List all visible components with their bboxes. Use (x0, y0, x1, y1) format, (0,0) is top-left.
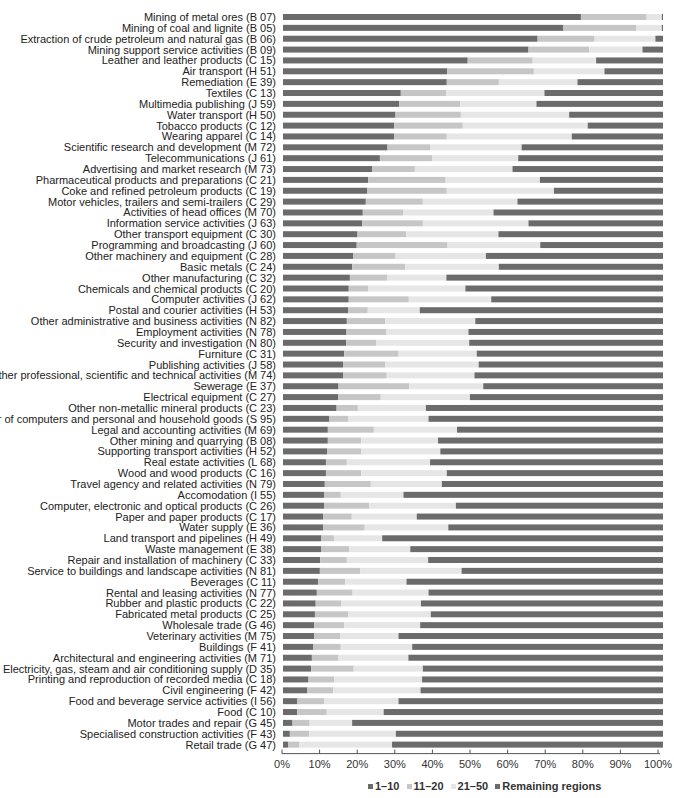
bar-segment-21-50 (361, 438, 438, 444)
bar-segment-1-10 (283, 709, 297, 715)
bar-segment-21-50 (409, 296, 491, 302)
bar-segment-remaining-regions (440, 448, 663, 454)
bar-segment-1-10 (283, 742, 288, 748)
bar-segment-remaining-regions (588, 123, 663, 129)
bar-segment-11-20 (346, 340, 376, 346)
legend-item-1-10: 1–10 (368, 780, 399, 792)
bar-segment-21-50 (368, 307, 420, 313)
x-tick-label: 90% (609, 758, 631, 770)
bar-segment-1-10 (283, 36, 538, 42)
bar-segment-remaining-regions (422, 676, 663, 682)
bar-segment-remaining-regions (498, 231, 663, 237)
bar-segment-remaining-regions (399, 633, 663, 639)
x-axis: 0%10%20%30%40%50%60%70%80%90%100% (274, 750, 672, 770)
bar-segment-21-50 (376, 340, 469, 346)
bar-segment-remaining-regions (642, 47, 663, 53)
bar-segment-21-50 (395, 253, 485, 259)
bar-segment-remaining-regions (417, 514, 663, 520)
bar-segment-remaining-regions (431, 611, 663, 617)
bar-segment-1-10 (283, 242, 357, 248)
legend-item-21-50: 21–50 (451, 780, 489, 792)
bar-segment-21-50 (461, 112, 569, 118)
bar-segment-21-50 (361, 448, 440, 454)
bar-segment-21-50 (406, 231, 498, 237)
bar-segment-21-50 (369, 503, 456, 509)
bar-segment-1-10 (283, 340, 346, 346)
bar-segment-11-20 (367, 188, 446, 194)
bar-segment-11-20 (320, 557, 347, 563)
bar-segment-1-10 (283, 329, 346, 335)
bar-segment-1-10 (283, 405, 337, 411)
bar-segment-21-50 (327, 709, 384, 715)
bar-segment-remaining-regions (475, 372, 663, 378)
bar-segment-21-50 (358, 405, 426, 411)
bar-segment-11-20 (372, 166, 415, 172)
bar-segment-11-20 (307, 687, 333, 693)
bar-segment-11-20 (447, 79, 499, 85)
bar-segment-remaining-regions (382, 535, 663, 541)
bar-segment-remaining-regions (396, 731, 663, 737)
bar-segment-11-20 (363, 209, 404, 215)
bar-segment-1-10 (283, 394, 338, 400)
x-tick-label: 70% (534, 758, 556, 770)
bar-segment-21-50 (348, 416, 429, 422)
bar-segment-remaining-regions (479, 362, 663, 368)
bar-segment-11-20 (366, 199, 423, 205)
bar-segment-1-10 (283, 416, 329, 422)
legend-item-11-20: 11–20 (407, 780, 444, 792)
bar-segment-remaining-regions (403, 492, 663, 498)
legend-label: 11–20 (414, 780, 444, 792)
bar-segment-21-50 (447, 188, 554, 194)
bar-segment-remaining-regions (352, 720, 663, 726)
bar-segment-remaining-regions (536, 101, 663, 107)
legend-swatch (495, 784, 500, 789)
bar-segment-11-20 (388, 144, 431, 150)
bar-segment-11-20 (401, 90, 446, 96)
bar-segment-21-50 (349, 546, 410, 552)
bar-segment-remaining-regions (420, 307, 663, 313)
bar-segment-21-50 (299, 742, 392, 748)
bar-segment-1-10 (283, 676, 308, 682)
bar-segment-21-50 (309, 731, 396, 737)
bar-segment-1-10 (283, 166, 372, 172)
bar-segment-21-50 (423, 199, 518, 205)
bar-segment-11-20 (347, 318, 385, 324)
legend-item-remaining-regions: Remaining regions (495, 780, 601, 792)
bar-segment-21-50 (446, 90, 544, 96)
bar-segment-1-10 (283, 546, 321, 552)
bar-segment-11-20 (468, 57, 533, 63)
bar-segment-11-20 (362, 220, 423, 226)
bar-segment-21-50 (361, 470, 447, 476)
bar-segment-1-10 (283, 68, 447, 74)
bar-segment-1-10 (283, 731, 290, 737)
bar-segment-21-50 (341, 644, 412, 650)
bar-segment-11-20 (353, 253, 395, 259)
bar-segment-remaining-regions (477, 351, 663, 357)
bar-segment-11-20 (326, 470, 361, 476)
bar-segment-11-20 (328, 438, 361, 444)
bar-segment-remaining-regions (544, 90, 663, 96)
bar-segment-11-20 (395, 112, 460, 118)
bar-segment-11-20 (297, 698, 324, 704)
bar-segment-21-50 (385, 362, 478, 368)
bar-segment-21-50 (463, 123, 588, 129)
bar-segment-21-50 (385, 318, 475, 324)
category-labels: Mining of metal ores (B 07)Mining of coa… (0, 11, 276, 751)
bar-segment-21-50 (333, 687, 420, 693)
bar-segment-21-50 (388, 275, 447, 281)
bar-segment-remaining-regions (429, 416, 663, 422)
legend-label: 1–10 (375, 780, 399, 792)
bar-segment-remaining-regions (408, 655, 663, 661)
bars (283, 14, 663, 748)
bar-segment-remaining-regions (494, 209, 663, 215)
bar-segment-remaining-regions (540, 242, 663, 248)
bar-segment-21-50 (460, 101, 536, 107)
bar-segment-21-50 (365, 524, 449, 530)
bar-segment-21-50 (386, 329, 468, 335)
bar-segment-1-10 (283, 188, 367, 194)
bar-segment-remaining-regions (447, 470, 663, 476)
bar-segment-11-20 (315, 611, 348, 617)
bar-segment-21-50 (636, 25, 662, 31)
legend-items: 1–10 11–20 21–50 Remaining regions (368, 780, 605, 792)
bar-segment-11-20 (314, 622, 344, 628)
